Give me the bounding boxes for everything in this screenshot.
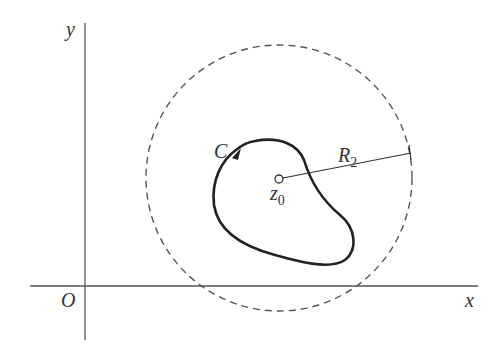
contour-diagram: y x O R2 C z0 — [0, 0, 496, 360]
origin-label: O — [61, 289, 75, 311]
x-axis-label: x — [464, 289, 474, 311]
y-axis-label: y — [64, 18, 75, 41]
center-label: z0 — [269, 182, 285, 208]
contour-label: C — [214, 140, 228, 162]
center-label-subscript: 0 — [278, 193, 285, 208]
radius-label-subscript: 2 — [350, 155, 357, 170]
radius-label: R2 — [337, 144, 357, 170]
